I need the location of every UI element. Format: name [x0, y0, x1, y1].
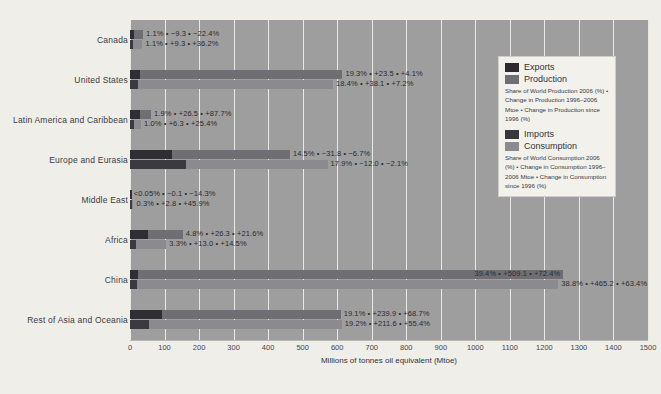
- x-tick-label: 600: [331, 343, 344, 352]
- coal-production-consumption-chart: CanadaUnited StatesLatin America and Car…: [0, 0, 661, 394]
- chart-legend: Exports Production Share of World Produc…: [498, 56, 616, 197]
- legend-item-consumption: Consumption: [505, 141, 609, 151]
- exports-bar: [130, 150, 172, 159]
- production-data-label: 39.4% • +509.1 • +72.4%: [474, 269, 560, 278]
- production-data-label: <0.05% • −0.1 • −14.3%: [134, 189, 216, 198]
- x-tick-label: 0: [128, 343, 132, 352]
- consumption-data-label: 1.1% • +9.3 • +36.2%: [145, 39, 218, 48]
- production-data-label: 1.1% • −9.3 • −22.4%: [146, 29, 219, 38]
- imports-swatch-icon: [505, 130, 519, 139]
- exports-bar: [130, 70, 140, 79]
- production-data-label: 19.3% • +23.5 • +4.1%: [345, 69, 422, 78]
- legend-item-production: Production: [505, 74, 609, 84]
- consumption-bar: [130, 320, 342, 329]
- consumption-data-label: 18.4% • +38.1 • +7.2%: [336, 79, 413, 88]
- x-tick-label: 1300: [571, 343, 588, 352]
- x-tick-label: 400: [262, 343, 275, 352]
- consumption-data-label: 38.8% • +465.2 • +63.4%: [561, 279, 647, 288]
- x-tick-label: 200: [193, 343, 206, 352]
- imports-bar: [130, 120, 134, 129]
- legend-note-production: Share of World Production 2006 (%) • Cha…: [505, 86, 609, 123]
- consumption-swatch-icon: [505, 142, 519, 151]
- imports-bar: [130, 200, 132, 209]
- x-tick-label: 500: [296, 343, 309, 352]
- category-label: Canada: [8, 35, 128, 45]
- category-label: Europe and Eurasia: [8, 155, 128, 165]
- x-tick-label: 700: [365, 343, 378, 352]
- imports-bar: [130, 280, 137, 289]
- imports-bar: [130, 80, 138, 89]
- gridline: [130, 20, 131, 340]
- gridline: [648, 20, 649, 340]
- exports-bar: [130, 230, 148, 239]
- legend-label-imports: Imports: [524, 129, 554, 139]
- x-tick-label: 800: [400, 343, 413, 352]
- x-tick-label: 1200: [536, 343, 553, 352]
- gridline: [268, 20, 269, 340]
- consumption-bar: [130, 80, 333, 89]
- x-tick-label: 100: [158, 343, 171, 352]
- category-label-column: CanadaUnited StatesLatin America and Car…: [4, 20, 128, 340]
- category-label: Latin America and Caribbean: [8, 115, 128, 125]
- exports-bar: [130, 310, 162, 319]
- x-tick-label: 1400: [605, 343, 622, 352]
- x-tick-label: 1000: [467, 343, 484, 352]
- legend-label-production: Production: [524, 74, 567, 84]
- imports-bar: [130, 160, 186, 169]
- category-label: China: [8, 275, 128, 285]
- x-tick-label: 900: [435, 343, 448, 352]
- x-axis-line: [130, 340, 648, 341]
- category-label: United States: [8, 75, 128, 85]
- production-bar: [130, 70, 342, 79]
- production-data-label: 4.8% • +26.3 • +21.6%: [186, 229, 263, 238]
- category-label: Rest of Asia and Oceania: [8, 315, 128, 325]
- x-tick-label: 1500: [640, 343, 657, 352]
- exports-bar: [130, 270, 138, 279]
- gridline: [303, 20, 304, 340]
- x-axis-title: Millions of tonnes oil equivalent (Mtoe): [130, 356, 648, 365]
- production-data-label: 19.1% • +239.9 • +68.7%: [344, 309, 430, 318]
- gridline: [372, 20, 373, 340]
- consumption-data-label: 0.3% • +2.8 • +45.9%: [136, 199, 209, 208]
- consumption-data-label: 17.9% • −12.0 • −2.1%: [331, 159, 408, 168]
- production-data-label: 1.9% • +26.5 • +87.7%: [154, 109, 231, 118]
- gridline: [165, 20, 166, 340]
- consumption-bar: [130, 280, 558, 289]
- imports-bar: [130, 240, 136, 249]
- consumption-data-label: 19.2% • +211.6 • +55.4%: [345, 319, 430, 328]
- gridline: [234, 20, 235, 340]
- gridline: [441, 20, 442, 340]
- consumption-data-label: 1.0% • +6.3 • +25.4%: [144, 119, 217, 128]
- legend-item-exports: Exports: [505, 62, 609, 72]
- production-swatch-icon: [505, 75, 519, 84]
- imports-bar: [130, 40, 133, 49]
- exports-swatch-icon: [505, 63, 519, 72]
- exports-bar: [130, 110, 140, 119]
- category-label: Africa: [8, 235, 128, 245]
- legend-note-consumption: Share of World Consumption 2006 (%) • Ch…: [505, 153, 609, 190]
- production-data-label: 14.5% • −31.8 • −6.7%: [293, 149, 370, 158]
- gridline: [406, 20, 407, 340]
- gridline: [199, 20, 200, 340]
- exports-bar: [130, 30, 134, 39]
- category-label: Middle East: [8, 195, 128, 205]
- gridline: [337, 20, 338, 340]
- legend-label-consumption: Consumption: [524, 141, 577, 151]
- exports-bar: [130, 190, 132, 199]
- legend-item-imports: Imports: [505, 129, 609, 139]
- x-tick-label: 300: [227, 343, 240, 352]
- imports-bar: [130, 320, 149, 329]
- gridline: [475, 20, 476, 340]
- consumption-data-label: 3.3% • +13.0 • +14.5%: [169, 239, 246, 248]
- legend-label-exports: Exports: [524, 62, 555, 72]
- x-tick-label: 1100: [502, 343, 518, 352]
